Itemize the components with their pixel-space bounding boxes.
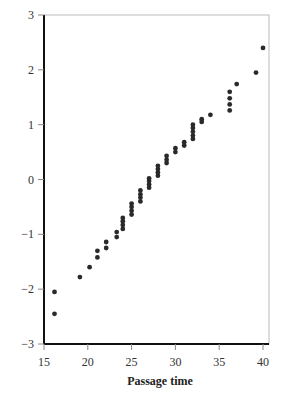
data-point: [104, 246, 109, 251]
data-point: [114, 230, 119, 235]
x-tick-label: 40: [257, 355, 269, 369]
normal-probability-plot: −3−2−10123152025303540 Passage time: [0, 0, 285, 401]
data-point: [164, 154, 169, 159]
x-tick-label: 25: [126, 355, 138, 369]
data-point: [261, 46, 266, 51]
data-point: [78, 275, 83, 280]
data-points: [52, 46, 265, 317]
data-point: [147, 176, 152, 181]
data-point: [138, 188, 143, 193]
data-point: [129, 201, 134, 206]
data-point: [227, 89, 232, 94]
y-tick-label: 3: [28, 8, 34, 22]
data-point: [156, 163, 161, 168]
data-point: [227, 96, 232, 101]
data-point: [227, 102, 232, 107]
x-tick-label: 20: [82, 355, 94, 369]
x-axis-title: Passage time: [127, 374, 193, 388]
y-tick-label: 2: [28, 63, 34, 77]
data-point: [52, 311, 57, 316]
x-tick-label: 35: [213, 355, 225, 369]
data-point: [95, 248, 100, 253]
plot-frame: [44, 15, 269, 344]
data-point: [52, 290, 57, 295]
x-tick-label: 30: [169, 355, 181, 369]
data-point: [208, 112, 213, 117]
y-tick-label: −3: [21, 337, 34, 351]
data-point: [182, 140, 187, 145]
data-point: [114, 235, 119, 240]
data-point: [104, 240, 109, 245]
data-point: [234, 82, 239, 87]
y-tick-label: 1: [28, 118, 34, 132]
data-point: [87, 265, 92, 270]
x-tick-label: 15: [38, 355, 50, 369]
data-point: [120, 216, 125, 221]
data-point: [227, 108, 232, 113]
data-point: [254, 70, 259, 75]
y-tick-label: −1: [21, 227, 34, 241]
data-point: [95, 255, 100, 260]
axes: −3−2−10123152025303540: [21, 8, 269, 369]
y-tick-label: 0: [28, 173, 34, 187]
y-tick-label: −2: [21, 282, 34, 296]
data-point: [173, 146, 178, 151]
data-point: [199, 117, 204, 122]
data-point: [191, 122, 196, 127]
